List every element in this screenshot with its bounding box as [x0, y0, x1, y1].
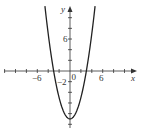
x-axis	[4, 69, 137, 74]
y-axis-label: y	[60, 4, 65, 14]
origin-label: 0	[72, 72, 77, 82]
x-axis-label: x	[130, 73, 135, 83]
y-tick-label-neg2: −2	[57, 77, 67, 87]
y-axis-arrow-icon	[68, 6, 73, 12]
x-tick-label-6: 6	[99, 73, 104, 83]
y-tick-label-6: 6	[63, 34, 68, 44]
x-tick-label-neg6: −6	[32, 73, 42, 83]
y-axis	[68, 6, 73, 128]
parabola-chart: y x 0 −6 6 6 −2	[0, 0, 144, 133]
